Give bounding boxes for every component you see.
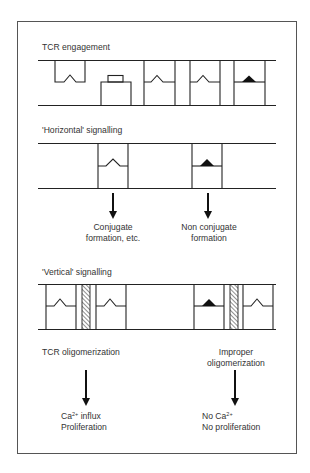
arrow-down-icon <box>231 370 239 406</box>
arrow-down-icon <box>204 193 212 219</box>
outcome-label: Non conjugate formation <box>181 222 236 244</box>
figure-frame <box>18 22 297 454</box>
hatched-bridge <box>82 285 90 330</box>
condition-label: Improper oligomerization <box>207 347 265 369</box>
diagram-canvas <box>0 0 310 473</box>
outcome-label: Conjugate formation, etc. <box>86 222 140 244</box>
condition-label: TCR oligomerization <box>42 347 120 358</box>
tcr-engagement-membrane <box>38 61 276 106</box>
section-title: 'Vertical' signalling <box>42 267 112 278</box>
ligand-filled-triangle-icon <box>202 299 216 306</box>
ligand-filled-triangle-icon <box>242 76 256 83</box>
hatched-bridge <box>230 285 238 330</box>
arrow-down-icon <box>109 193 117 219</box>
section-title: TCR engagement <box>42 42 110 53</box>
section-title: 'Horizontal' signalling <box>42 125 122 136</box>
vertical-signalling-membrane <box>38 285 276 330</box>
result-label: No Ca2+ No proliferation <box>202 411 260 433</box>
result-label: Ca2+ influx Proliferation <box>61 411 107 433</box>
ligand-filled-triangle-icon <box>200 159 214 166</box>
horizontal-signalling-membrane <box>38 144 276 189</box>
arrow-down-icon <box>82 370 90 406</box>
